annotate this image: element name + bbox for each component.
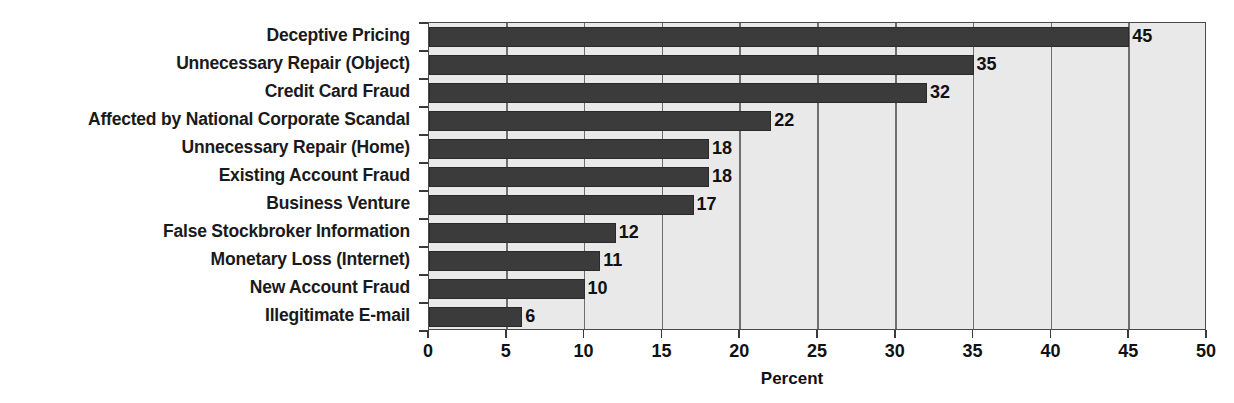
gridline: [1051, 23, 1053, 329]
y-axis-tick: [419, 78, 428, 80]
x-axis-tick-label: 10: [574, 342, 594, 360]
bar-value-label: 35: [977, 55, 997, 73]
bar-value-label: 12: [619, 223, 639, 241]
category-label: Deceptive Pricing: [0, 27, 410, 45]
x-axis-tick-label: 20: [729, 342, 749, 360]
bar-value-label: 17: [697, 195, 717, 213]
x-axis-tick: [505, 330, 507, 338]
x-axis-tick-label: 5: [501, 342, 511, 360]
y-axis-tick: [419, 274, 428, 276]
bar: [429, 195, 694, 215]
x-axis-tick: [661, 330, 663, 338]
x-axis-tick-label: 30: [885, 342, 905, 360]
y-axis-tick: [419, 302, 428, 304]
bar: [429, 139, 709, 159]
x-axis-tick-label: 0: [423, 342, 433, 360]
x-axis-tick: [1050, 330, 1052, 338]
bar-value-label: 45: [1132, 27, 1152, 45]
category-label: False Stockbroker Information: [0, 223, 410, 241]
x-axis-tick: [972, 330, 974, 338]
bar-value-label: 10: [588, 279, 608, 297]
x-axis-title: Percent: [761, 370, 823, 387]
x-axis-tick: [583, 330, 585, 338]
bar-value-label: 11: [603, 251, 622, 269]
y-axis-tick: [419, 218, 428, 220]
y-axis-tick: [419, 50, 428, 52]
x-axis-tick: [427, 330, 429, 338]
y-axis-tick: [419, 162, 428, 164]
bar: [429, 279, 585, 299]
bar: [429, 27, 1129, 47]
category-axis-labels: Deceptive PricingUnnecessary Repair (Obj…: [0, 22, 420, 330]
bar: [429, 251, 600, 271]
bar: [429, 307, 522, 327]
category-label: Unnecessary Repair (Home): [0, 139, 410, 157]
x-axis-tick: [1205, 330, 1207, 338]
bar-value-label: 6: [525, 307, 535, 325]
plot-area: [428, 22, 1206, 330]
y-axis-tick: [419, 246, 428, 248]
x-axis-tick-label: 50: [1196, 342, 1216, 360]
category-label: Affected by National Corporate Scandal: [0, 111, 410, 129]
category-label: New Account Fraud: [0, 279, 410, 297]
y-axis-tick: [419, 190, 428, 192]
x-axis-tick: [816, 330, 818, 338]
gridline: [1128, 23, 1130, 329]
bar: [429, 223, 616, 243]
bar: [429, 55, 974, 75]
category-label: Illegitimate E-mail: [0, 307, 410, 325]
bar-value-label: 18: [712, 139, 732, 157]
x-axis-tick: [738, 330, 740, 338]
category-label: Unnecessary Repair (Object): [0, 55, 410, 73]
category-label: Credit Card Fraud: [0, 83, 410, 101]
y-axis-tick: [419, 22, 428, 24]
bar: [429, 167, 709, 187]
bar-value-label: 22: [774, 111, 794, 129]
category-label: Business Venture: [0, 195, 410, 213]
x-axis-tick-label: 40: [1040, 342, 1060, 360]
bar: [429, 111, 771, 131]
x-axis-tick: [1127, 330, 1129, 338]
bar-chart: Deceptive PricingUnnecessary Repair (Obj…: [0, 0, 1234, 403]
x-axis-tick-label: 35: [963, 342, 983, 360]
y-axis-tick: [419, 106, 428, 108]
bar-value-label: 18: [712, 167, 732, 185]
y-axis-tick: [419, 134, 428, 136]
x-axis-tick: [894, 330, 896, 338]
bar: [429, 83, 927, 103]
x-axis-tick-label: 25: [807, 342, 827, 360]
category-label: Monetary Loss (Internet): [0, 251, 410, 269]
bar-value-label: 32: [930, 83, 950, 101]
x-axis-tick-label: 45: [1118, 342, 1138, 360]
category-label: Existing Account Fraud: [0, 167, 410, 185]
x-axis-tick-label: 15: [651, 342, 671, 360]
